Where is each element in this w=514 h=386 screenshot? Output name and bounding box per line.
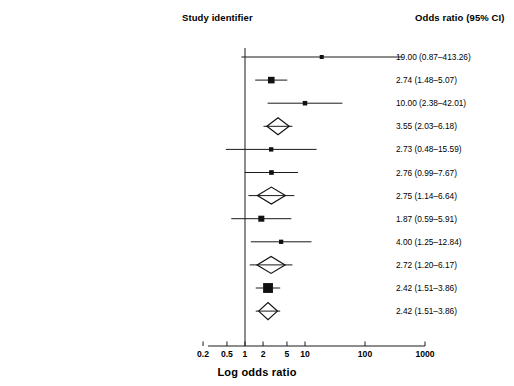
odds-ratio-value: 1.87 (0.59–5.91) [396, 214, 457, 224]
forest-row [263, 118, 292, 135]
odds-ratio-value: 2.76 (0.99–7.67) [396, 168, 457, 178]
point-estimate-marker [303, 101, 308, 106]
forest-row [256, 283, 280, 293]
forest-row [250, 256, 293, 273]
point-estimate-marker [279, 240, 283, 244]
forest-row [255, 77, 287, 84]
study-label-column: Black et al., 2001Bottlender et al., 200… [0, 0, 232, 386]
axis-tick-label: 10 [275, 349, 335, 359]
odds-ratio-value: 2.42 (1.51–3.86) [396, 283, 457, 293]
odds-ratio-value: 4.00 (1.25–12.84) [396, 237, 462, 247]
axis-tick-label: 100 [335, 349, 395, 359]
odds-ratio-value: 2.74 (1.48–5.07) [396, 75, 457, 85]
forest-row [231, 216, 291, 222]
odds-ratio-value: 3.55 (2.03–6.18) [396, 121, 457, 131]
forest-row [256, 303, 280, 320]
forest-row [248, 187, 294, 204]
point-estimate-marker [258, 216, 264, 222]
odds-ratio-value: 19.00 (0.87–413.26) [396, 52, 471, 62]
forest-row [245, 170, 298, 175]
point-estimate-marker [268, 77, 275, 84]
axis-tick-label: 1000 [395, 349, 455, 359]
x-axis-title: Log odds ratio [0, 366, 514, 378]
forest-row [241, 55, 402, 59]
odds-ratio-value: 2.73 (0.48–15.59) [396, 144, 462, 154]
odds-ratio-value: 10.00 (2.38–42.01) [396, 98, 466, 108]
odds-ratio-value: 2.42 (1.51–3.86) [396, 306, 457, 316]
odds-ratio-value: 2.75 (1.14–6.64) [396, 191, 457, 201]
forest-row [226, 147, 317, 151]
point-estimate-marker [263, 283, 273, 293]
forest-row [268, 101, 343, 106]
forest-row [251, 240, 312, 244]
odds-ratio-column: 19.00 (0.87–413.26)2.74 (1.48–5.07)10.00… [396, 0, 514, 386]
point-estimate-marker [269, 170, 274, 175]
point-estimate-marker [269, 147, 273, 151]
point-estimate-marker [320, 55, 324, 59]
odds-ratio-value: 2.72 (1.20–6.17) [396, 260, 457, 270]
